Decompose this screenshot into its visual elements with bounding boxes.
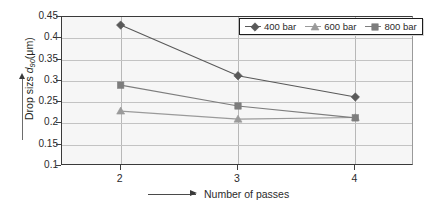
x-axis-tick-mark <box>237 165 238 170</box>
x-axis-title: Number of passes <box>148 188 289 200</box>
y-axis-tick-label: 0.4 <box>30 32 58 42</box>
y-axis-tick-mark <box>56 80 61 81</box>
triangle-marker <box>311 23 319 30</box>
legend-item[interactable]: 800 bar <box>365 21 416 32</box>
chart-legend: 400 bar600 bar800 bar <box>239 18 423 35</box>
y-axis-tick-mark <box>56 122 61 123</box>
y-axis-direction-arrow-icon <box>22 78 23 140</box>
y-axis-tick-label: 0.25 <box>30 96 58 106</box>
square-marker <box>352 115 358 121</box>
series-line <box>121 25 356 97</box>
legend-item[interactable]: 400 bar <box>245 21 296 32</box>
legend-key-marker <box>250 22 260 32</box>
triangle-icon <box>305 21 321 32</box>
square-marker <box>372 24 378 30</box>
triangle-marker <box>117 107 125 114</box>
y-axis-tick-label: 0.1 <box>30 160 58 170</box>
y-axis-tick-mark <box>56 101 61 102</box>
y-axis-tick-label: 0.35 <box>30 54 58 64</box>
square-marker <box>117 82 123 88</box>
x-axis-tick-mark <box>354 165 355 170</box>
diamond-marker <box>251 23 259 31</box>
x-axis-direction-arrow-icon <box>148 194 196 195</box>
x-axis-tick-label: 2 <box>105 172 135 184</box>
legend-key-marker <box>370 22 380 32</box>
y-axis-tick-label: 0.45 <box>30 11 58 21</box>
y-axis-tick-label: 0.2 <box>30 117 58 127</box>
diamond-marker <box>351 93 359 101</box>
y-axis-tick-labels: 0.450.40.350.30.250.20.150.1 <box>30 0 58 211</box>
y-axis-tick-mark <box>56 59 61 60</box>
series-layer <box>62 17 414 166</box>
legend-item[interactable]: 600 bar <box>305 21 356 32</box>
x-axis-tick-label: 3 <box>222 172 252 184</box>
chart-figure: Drop sizs d90(μm) 0.450.40.350.30.250.20… <box>0 0 431 211</box>
legend-key-marker <box>310 22 320 32</box>
square-marker <box>235 103 241 109</box>
y-axis-tick-mark <box>56 16 61 17</box>
diamond-marker <box>234 72 242 80</box>
y-axis-tick-label: 0.15 <box>30 139 58 149</box>
x-axis-title-text: Number of passes <box>204 188 289 200</box>
y-axis-title: Drop sizs d90(μm) <box>10 8 32 168</box>
legend-item-label: 800 bar <box>384 21 416 32</box>
diamond-marker <box>116 21 124 29</box>
legend-item-label: 600 bar <box>324 21 356 32</box>
plot-area <box>61 16 413 165</box>
y-axis-tick-mark <box>56 37 61 38</box>
legend-item-label: 400 bar <box>264 21 296 32</box>
y-axis-tick-label: 0.3 <box>30 75 58 85</box>
x-axis-tick-mark <box>120 165 121 170</box>
x-axis-tick-label: 4 <box>339 172 369 184</box>
y-axis-tick-mark <box>56 144 61 145</box>
square-icon <box>365 21 381 32</box>
y-axis-tick-mark <box>56 165 61 166</box>
diamond-icon <box>245 21 261 32</box>
